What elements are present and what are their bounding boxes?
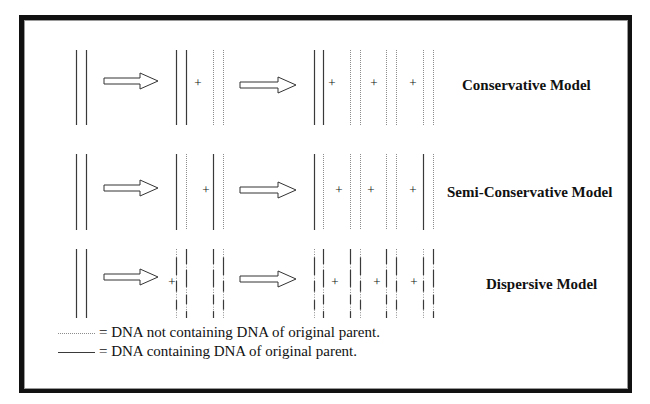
arrow-right-icon — [240, 271, 296, 287]
dispersive-model-label: Dispersive Model — [486, 277, 597, 292]
plus-sign: + — [335, 182, 342, 197]
arrow-right-icon — [104, 180, 158, 196]
dna-replication-diagram: ++++++++++++ Conservative Model Semi-Con… — [0, 0, 650, 404]
legend-parent-dna-text: = DNA containing DNA of original parent. — [99, 344, 357, 359]
plus-sign: + — [373, 274, 380, 289]
plus-sign: + — [328, 75, 335, 90]
conservative-model-row: ++++ — [77, 50, 434, 125]
plus-sign: + — [331, 274, 338, 289]
plus-sign: + — [367, 182, 374, 197]
arrow-right-icon — [240, 182, 296, 198]
plus-sign: + — [168, 274, 175, 289]
legend-new-dna-text: = DNA not containing DNA of original par… — [99, 325, 380, 340]
semi-conservative-model-row: ++++ — [77, 154, 434, 230]
conservative-model-label: Conservative Model — [462, 78, 591, 93]
plus-sign: + — [409, 75, 416, 90]
arrow-right-icon — [104, 73, 158, 89]
plus-sign: + — [202, 182, 209, 197]
plus-sign: + — [409, 182, 416, 197]
semi-conservative-model-label: Semi-Conservative Model — [447, 185, 612, 200]
arrow-right-icon — [104, 269, 158, 285]
dispersive-model-row: ++++ — [77, 249, 434, 318]
plus-sign: + — [410, 274, 417, 289]
plus-sign: + — [194, 75, 201, 90]
arrow-right-icon — [240, 77, 296, 93]
plus-sign: + — [370, 75, 377, 90]
